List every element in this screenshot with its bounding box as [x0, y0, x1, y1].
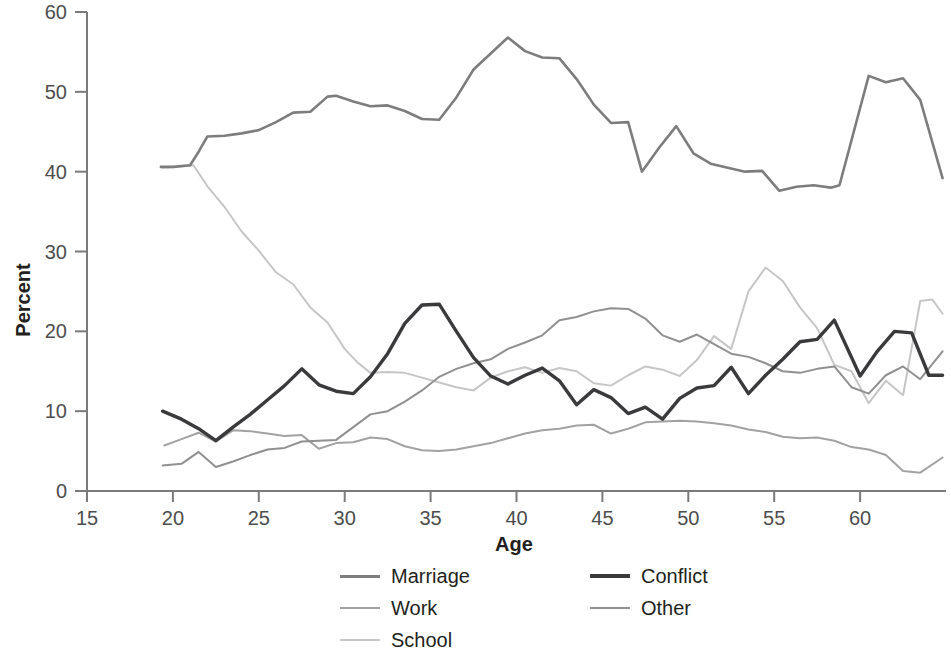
- series-line-marriage: [161, 38, 943, 191]
- legend-swatch-school: [340, 639, 380, 641]
- y-tick-label: 10: [45, 400, 67, 422]
- y-tick-label: 50: [45, 81, 67, 103]
- y-tick-label: 20: [45, 320, 67, 342]
- legend-label-work: Work: [391, 597, 437, 620]
- x-tick-label: 30: [334, 507, 356, 529]
- chart-figure: 0102030405060 15202530354045505560 Perce…: [0, 0, 951, 656]
- x-tick-label: 25: [248, 507, 270, 529]
- legend-item-marriage: Marriage: [340, 565, 590, 588]
- legend-item-school: School: [340, 629, 590, 652]
- x-axis-title: Age: [495, 533, 533, 555]
- x-tick-label: 45: [591, 507, 613, 529]
- y-tick-label: 60: [45, 1, 67, 23]
- legend-swatch-other: [590, 607, 630, 609]
- y-tick-label: 0: [56, 480, 67, 502]
- y-tick-label: 40: [45, 161, 67, 183]
- x-tick-label: 55: [763, 507, 785, 529]
- x-tick-label: 50: [677, 507, 699, 529]
- series-line-conflict: [163, 304, 943, 441]
- legend-swatch-conflict: [590, 574, 630, 578]
- line-chart-plot: 0102030405060 15202530354045505560 Perce…: [0, 0, 951, 656]
- legend-swatch-marriage: [340, 575, 380, 578]
- x-axis-ticks: 15202530354045505560: [76, 491, 871, 529]
- legend-swatch-work: [340, 607, 380, 609]
- data-series-group: [161, 38, 943, 473]
- chart-legend: Marriage Conflict Work Other School: [340, 560, 760, 656]
- x-tick-label: 40: [505, 507, 527, 529]
- series-line-work: [164, 421, 942, 473]
- x-tick-label: 35: [419, 507, 441, 529]
- x-tick-label: 20: [162, 507, 184, 529]
- legend-item-work: Work: [340, 597, 590, 620]
- legend-item-other: Other: [590, 597, 790, 620]
- legend-label-school: School: [391, 629, 452, 652]
- legend-label-marriage: Marriage: [391, 565, 470, 588]
- y-axis-ticks: 0102030405060: [45, 1, 87, 502]
- y-axis-title: Percent: [12, 263, 34, 337]
- x-tick-label: 60: [849, 507, 871, 529]
- legend-label-other: Other: [641, 597, 691, 620]
- legend-item-conflict: Conflict: [590, 565, 790, 588]
- y-tick-label: 30: [45, 241, 67, 263]
- x-tick-label: 15: [76, 507, 98, 529]
- legend-label-conflict: Conflict: [641, 565, 708, 588]
